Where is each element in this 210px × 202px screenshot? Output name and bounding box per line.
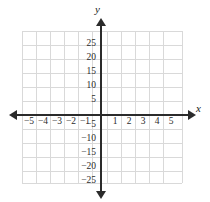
grid-line-horizontal — [22, 157, 182, 158]
x-axis-tick-label: 3 — [136, 117, 150, 127]
grid-line-vertical — [22, 31, 23, 183]
y-axis-tick-label: 25 — [72, 39, 96, 49]
grid-line-horizontal — [22, 101, 182, 102]
grid-line-vertical — [135, 31, 136, 183]
grid-line-vertical — [36, 31, 37, 183]
grid-line-vertical — [149, 31, 150, 183]
y-axis-line — [100, 25, 102, 193]
x-axis-tick-label: 1 — [108, 117, 122, 127]
grid-line-vertical — [50, 31, 51, 183]
arrow-down-icon — [96, 191, 106, 199]
grid-line-vertical — [163, 31, 164, 183]
y-axis-name: y — [95, 4, 100, 15]
y-axis-tick-label: 20 — [72, 53, 96, 63]
x-axis-name: x — [196, 103, 201, 114]
y-axis-tick-label: 5 — [72, 95, 96, 105]
grid-line-vertical — [121, 31, 122, 183]
coordinate-plane-figure: y x −5−4−3−2−112345252015105−5−10−15−20−… — [0, 0, 210, 202]
grid-line-horizontal — [22, 73, 182, 74]
grid-line-horizontal — [22, 183, 182, 184]
grid-line-horizontal — [22, 31, 182, 32]
x-axis-tick-label: 2 — [122, 117, 136, 127]
x-axis-tick-label: 4 — [150, 117, 164, 127]
grid-line-vertical — [64, 31, 65, 183]
grid-line-vertical — [107, 31, 108, 183]
x-axis-tick-label: −5 — [22, 117, 36, 127]
x-axis-tick-label: −4 — [36, 117, 50, 127]
grid-line-horizontal — [22, 87, 182, 88]
arrow-up-icon — [96, 18, 106, 26]
y-axis-tick-label: −5 — [72, 120, 96, 130]
y-axis-tick-label: −25 — [72, 176, 96, 186]
grid — [22, 31, 182, 183]
x-axis-tick-label: 5 — [164, 117, 178, 127]
y-axis-tick-label: −15 — [72, 148, 96, 158]
grid-line-horizontal — [22, 129, 182, 130]
x-axis-tick-label: −3 — [50, 117, 64, 127]
arrow-right-icon — [188, 110, 196, 120]
grid-line-horizontal — [22, 59, 182, 60]
grid-line-horizontal — [22, 171, 182, 172]
y-axis-tick-label: 15 — [72, 67, 96, 77]
y-axis-tick-label: 10 — [72, 81, 96, 91]
y-axis-tick-label: −20 — [72, 162, 96, 172]
y-axis-tick-label: −10 — [72, 134, 96, 144]
arrow-left-icon — [9, 110, 17, 120]
grid-line-vertical — [182, 31, 183, 183]
grid-line-horizontal — [22, 45, 182, 46]
grid-line-horizontal — [22, 143, 182, 144]
